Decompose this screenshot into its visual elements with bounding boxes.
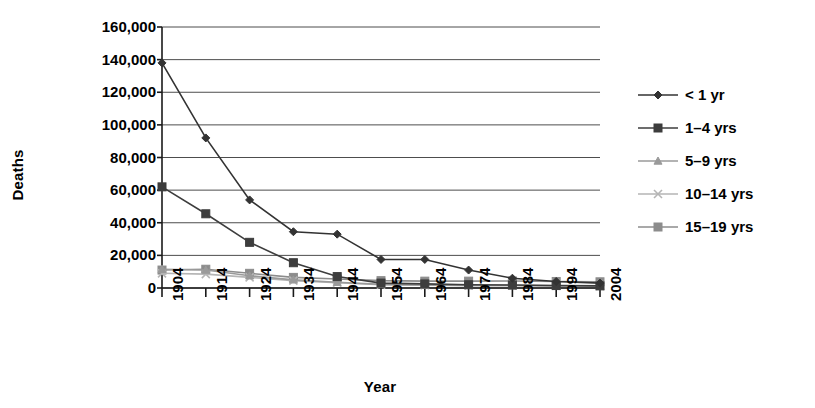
line-chart: Deaths 020,00040,00060,00080,000100,0001… [0,0,815,408]
legend-item-label[interactable]: 1–4 yrs [685,119,737,136]
legend-item-label[interactable]: < 1 yr [685,86,725,103]
legend-item-label[interactable]: 5–9 yrs [685,152,737,169]
legend-item-label[interactable]: 15–19 yrs [685,218,753,235]
legend-item-label[interactable]: 10–14 yrs [685,185,753,202]
legend: < 1 yr1–4 yrs5–9 yrs10–14 yrs15–19 yrs [0,0,815,408]
